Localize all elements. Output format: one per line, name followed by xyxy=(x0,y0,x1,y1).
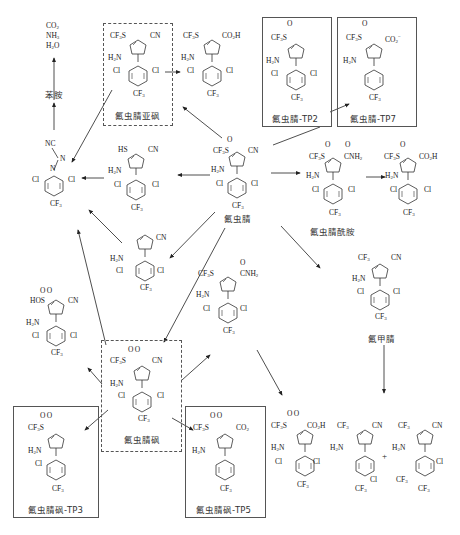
fipronil-cf3s: CF3S xyxy=(213,147,229,155)
amide-o2: O xyxy=(345,141,350,149)
amide-acid-cl2: Cl xyxy=(424,186,431,194)
amide-h2n: H2N xyxy=(306,172,319,180)
sulfide-cn: CN xyxy=(150,32,160,40)
tp2-o: O xyxy=(287,20,292,28)
amide-acid-co2h: CO2H xyxy=(419,153,437,161)
sulfone-amide-cf3s: CF3S xyxy=(198,270,214,278)
fipronil-cl2: Cl xyxy=(251,180,258,188)
dechloro-a-cn: CN xyxy=(372,422,382,430)
amide-o1: O xyxy=(325,141,330,149)
sulfide-cl2: Cl xyxy=(152,67,159,75)
sulfide-acid-cf3s: CF3S xyxy=(183,32,199,40)
diazo-cf3: CF3 xyxy=(50,200,62,208)
amide-acid-cl1: Cl xyxy=(390,186,397,194)
sulfide-acid-co2h: CO2H xyxy=(222,32,240,40)
label-desulfinyl: 氟甲腈 xyxy=(368,332,395,344)
sulfone-o: O O xyxy=(128,346,140,354)
label-fipronil-tp7: 氟虫腈-TP7 xyxy=(350,112,396,124)
desthio-cl1: Cl xyxy=(116,267,123,275)
diazo-nc: NC xyxy=(45,140,55,148)
sulfonic-o: O O xyxy=(40,287,52,295)
label-fipronil-sulfide: 氟虫腈亚砜 xyxy=(115,109,160,121)
tp7-o: O xyxy=(362,20,367,28)
diazo-cl1: Cl xyxy=(32,176,39,184)
tp5-cf3s: CF3S xyxy=(193,424,209,432)
sulfonic-cn: CN xyxy=(68,297,78,305)
plus-sign: + xyxy=(382,452,387,461)
dechloro-a-cl: Cl xyxy=(370,476,377,484)
label-fipronil-sulfone-tp3: 氟虫腈砜-TP3 xyxy=(28,503,83,515)
sulfone-acid-cf3s: CF3S xyxy=(271,422,287,430)
dechloro-b-cf3c: CF3 xyxy=(418,485,430,493)
sulfone-cf3s: CF3S xyxy=(110,357,126,365)
thiol-cf3: CF3 xyxy=(131,204,143,212)
desthio-h2n: H2N xyxy=(110,255,123,263)
sulfone-amide-cnh2: CNH2 xyxy=(240,270,258,278)
label-fipronil-tp2: 氟虫腈-TP2 xyxy=(272,112,318,124)
sulfone-cl1: Cl xyxy=(118,392,125,400)
amide-acid-h2n: H2N xyxy=(385,172,398,180)
sulfone-acid-h2n: H2N xyxy=(271,444,284,452)
desthio-cn: CN xyxy=(156,234,166,242)
amide-cf3: CF3 xyxy=(329,209,341,217)
amide-cnh2: CNH2 xyxy=(344,153,362,161)
sulfone-acid-cl1: Cl xyxy=(275,458,282,466)
tp5-o: O O xyxy=(210,412,222,420)
tp7-co2: CO2− xyxy=(385,34,401,44)
label-fipronil-amide: 氟虫腈酰胺 xyxy=(310,225,355,237)
label-fipronil-sulfone: 氟虫腈砜 xyxy=(124,433,160,445)
amide-acid-cf3s: CF3S xyxy=(384,153,400,161)
tp3-cf3: CF3 xyxy=(52,485,64,493)
sulfonic-cl1: Cl xyxy=(32,332,39,340)
tp2-cl2: Cl xyxy=(310,70,317,78)
dechloro-a-cf3b: CF3 xyxy=(355,485,367,493)
desulfinyl-cl1: Cl xyxy=(357,288,364,296)
sulfone-cn: CN xyxy=(152,357,162,365)
sulfone-cf3: CF3 xyxy=(138,415,150,423)
amide-cl1: Cl xyxy=(312,186,319,194)
sulfone-h2n: H2N xyxy=(110,380,123,388)
label-fipronil-sulfone-tp5: 氟虫腈砜-TP5 xyxy=(196,503,251,515)
desulfinyl-cl2: Cl xyxy=(393,288,400,296)
sulfide-cf3: CF3 xyxy=(133,90,145,98)
sulfide-acid-cf3: CF3 xyxy=(207,90,219,98)
desthio-cf3: CF3 xyxy=(140,284,152,292)
sulfone-amide-cf3: CF3 xyxy=(223,327,235,335)
sulfone-amide-cl1: Cl xyxy=(203,305,210,313)
desulfinyl-cf3b: CF3 xyxy=(375,313,387,321)
sulfonic-h2n: H2N xyxy=(26,319,39,327)
tp3-cl: Cl xyxy=(35,460,42,468)
thiol-cn: CN xyxy=(148,146,158,154)
dechloro-a-cf3: CF3 xyxy=(337,422,349,430)
dechloro-a-h2n: H2N xyxy=(330,444,343,452)
thiol-cl1: Cl xyxy=(114,181,121,189)
amide-acid-cf3: CF3 xyxy=(403,209,415,217)
sulfide-cf3s: CF3S xyxy=(110,32,126,40)
dechloro-b-cf3: CF3 xyxy=(398,422,410,430)
amide-acid-o: O xyxy=(400,141,405,149)
tp2-h2n: H2N xyxy=(266,57,279,65)
tp3-o: O O xyxy=(40,412,52,420)
tp2-cl1: Cl xyxy=(271,70,278,78)
tp5-cf3: CF3 xyxy=(220,485,232,493)
desulfinyl-cf3: CF3 xyxy=(358,254,370,262)
amide-cf3s: CF3S xyxy=(309,153,325,161)
sulfide-acid-cl2: Cl xyxy=(226,67,233,75)
diazo-n1: N xyxy=(60,155,65,163)
thiol-hs: HS xyxy=(118,146,128,154)
tp3-h2n: H2N xyxy=(28,447,41,455)
tp5-h2n: H2N xyxy=(192,447,205,455)
sulfone-acid-cf3: CF3 xyxy=(297,481,309,489)
sulfide-cl1: Cl xyxy=(113,67,120,75)
sulfone-amide-o: O xyxy=(240,259,245,267)
tp2-cf3s: CF3S xyxy=(271,34,287,42)
dechloro-b-cf3b: CF3 xyxy=(396,476,408,484)
sulfone-amide-h2n: H2N xyxy=(196,291,209,299)
fipronil-cn: CN xyxy=(248,147,258,155)
sulfonic-cf3: CF3 xyxy=(51,349,63,357)
label-fipronil: 氟虫腈 xyxy=(224,212,251,224)
sulfide-acid-h2n: H2N xyxy=(181,54,194,62)
desthio-cl2: Cl xyxy=(157,267,164,275)
dechloro-b-cn: CN xyxy=(432,422,442,430)
fipronil-cf3: CF3 xyxy=(232,202,244,210)
